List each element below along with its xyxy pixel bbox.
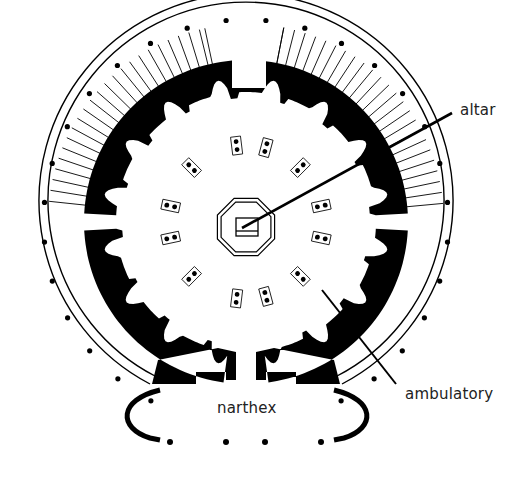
pier-pair <box>182 267 202 287</box>
pier-pair <box>231 289 243 308</box>
altar-label: altar <box>460 101 496 119</box>
pier-pair <box>161 231 181 245</box>
pier-pair <box>311 199 331 213</box>
narthex-columns <box>167 439 324 445</box>
pier-pair <box>311 231 331 245</box>
interior-pier-ring <box>161 136 331 308</box>
pier-pair <box>291 267 311 287</box>
pier-pair <box>231 136 243 155</box>
rotunda-wall <box>84 58 408 384</box>
ambulatory-label: ambulatory <box>405 385 493 403</box>
pier-pair <box>259 286 273 306</box>
pier-pair <box>161 199 181 213</box>
narthex-label: narthex <box>217 399 277 417</box>
pier-pair <box>259 138 273 158</box>
pier-pair <box>182 158 202 178</box>
apse-opening <box>232 58 266 88</box>
pier-pair <box>291 158 311 178</box>
